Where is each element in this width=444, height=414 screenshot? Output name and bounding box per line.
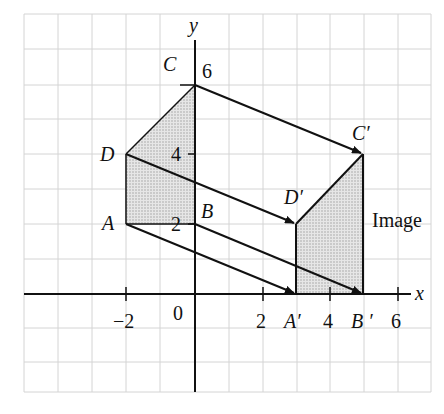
x-axis-label: x bbox=[414, 282, 424, 304]
grid bbox=[24, 14, 431, 392]
vertex-label-C: C bbox=[163, 53, 177, 75]
x-tick-4: 4 bbox=[323, 310, 333, 332]
x-tick-6: 6 bbox=[391, 310, 401, 332]
vertex-label-D-prime: D′ bbox=[283, 186, 303, 208]
vertex-label-A-prime: A′ bbox=[282, 310, 301, 332]
x-tick-neg2: −2 bbox=[113, 310, 134, 332]
y-tick-6: 6 bbox=[202, 60, 212, 82]
y-tick-4: 4 bbox=[171, 143, 181, 165]
vertex-label-B-prime: B ′ bbox=[351, 310, 373, 332]
x-tick-2: 2 bbox=[256, 310, 266, 332]
y-tick-2: 2 bbox=[171, 213, 181, 235]
vertex-label-C-prime: C′ bbox=[352, 122, 370, 144]
vertex-label-B: B bbox=[201, 200, 213, 222]
translation-diagram: y x 0 −2 2 4 6 2 4 6 C D A B C′ D′ A′ B … bbox=[0, 0, 444, 414]
vertex-label-A: A bbox=[100, 212, 115, 234]
image-title: Image bbox=[372, 209, 422, 232]
vertex-label-D: D bbox=[99, 143, 115, 165]
origin-label: 0 bbox=[173, 302, 183, 324]
y-axis-label: y bbox=[187, 14, 198, 37]
